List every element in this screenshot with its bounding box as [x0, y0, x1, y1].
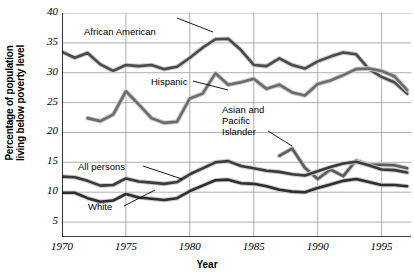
y-tick-label: 25 [30, 95, 58, 107]
annotation-label: Pacific [222, 115, 250, 126]
x-tick-label: 1980 [168, 240, 212, 252]
x-tick-label: 1985 [232, 240, 276, 252]
annotation-label: Hispanic [151, 76, 187, 87]
y-tick-label: 30 [30, 65, 58, 77]
x-tick-label: 1970 [40, 240, 84, 252]
y-tick-label: 35 [30, 35, 58, 47]
x-tick-label: 1975 [104, 240, 148, 252]
x-tick-label: 1990 [296, 240, 340, 252]
x-axis-title: Year [0, 259, 414, 270]
annotation-label: African American [84, 26, 156, 37]
annotation-label: Islander [222, 126, 256, 137]
y-tick-label: 20 [30, 124, 58, 136]
y-tick-label: 10 [30, 184, 58, 196]
annotation-label: All persons [78, 161, 125, 172]
x-tick-label: 1995 [360, 240, 404, 252]
y-tick-label: 5 [30, 214, 58, 226]
y-axis-tick-labels: 510152025303540 [28, 0, 58, 276]
poverty-rate-chart: Percentage of population living below po… [0, 0, 414, 276]
y-tick-label: 15 [30, 154, 58, 166]
y-tick-label: 40 [30, 5, 58, 17]
y-axis-title-line1: Percentage of population [4, 8, 15, 198]
annotation-label: Asian and [222, 104, 264, 115]
y-axis-title-line2: living below poverty level [15, 8, 26, 198]
annotation-label: White [88, 201, 112, 212]
